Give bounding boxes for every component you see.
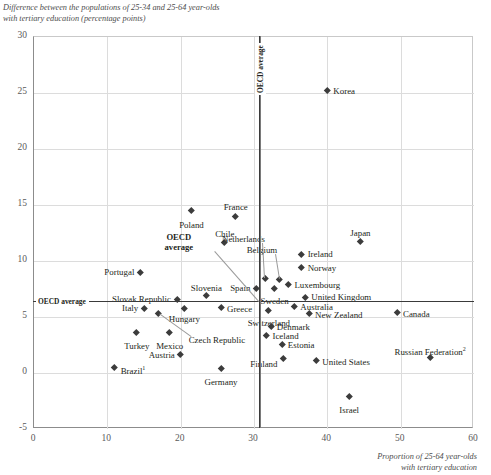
data-point-label: Germany	[205, 378, 238, 388]
data-point-marker[interactable]	[346, 393, 352, 399]
data-point-label: Israel	[339, 406, 359, 416]
plot-area: KoreaFrancePolandChileJapanNetherlandsBe…	[33, 36, 473, 428]
data-point-marker[interactable]	[271, 285, 277, 291]
data-point-label: France	[224, 203, 248, 213]
data-point-marker[interactable]	[203, 292, 209, 298]
data-point-marker[interactable]	[218, 365, 224, 371]
x-tick-label: 10	[86, 433, 126, 443]
gridline	[107, 37, 108, 429]
data-point-marker[interactable]	[298, 264, 304, 270]
data-point-marker[interactable]	[137, 269, 143, 275]
x-tick-label: 20	[160, 433, 200, 443]
data-point-marker[interactable]	[298, 251, 304, 257]
data-point-label: Slovenia	[191, 284, 222, 294]
data-point-label: Slovak Republic	[112, 295, 171, 305]
data-point-marker[interactable]	[218, 304, 224, 310]
y-tick-label: 0	[0, 366, 27, 376]
x-tick-label: 40	[306, 433, 346, 443]
data-point-label: Poland	[179, 221, 204, 231]
label-leader-line	[275, 254, 280, 279]
data-point-label: Austria	[149, 351, 175, 361]
data-point-label: Ireland	[308, 250, 333, 260]
data-point-marker[interactable]	[177, 351, 183, 357]
y-tick-label: -5	[0, 422, 27, 432]
gridline	[254, 37, 255, 429]
chart-container: Difference between the populations of 25…	[0, 0, 491, 475]
x-tick-label: 60	[453, 433, 491, 443]
data-point-marker[interactable]	[263, 332, 269, 338]
data-point-marker[interactable]	[357, 238, 363, 244]
data-point-label: Luxembourg	[294, 281, 340, 291]
gridline	[401, 37, 402, 429]
data-point-label: Japan	[350, 229, 370, 239]
data-point-label: Greece	[227, 305, 252, 315]
y-tick-label: 30	[0, 30, 27, 40]
data-point-label: Portugal	[104, 268, 134, 278]
data-point-label: New Zealand	[315, 311, 363, 321]
data-point-marker[interactable]	[232, 213, 238, 219]
data-point-marker[interactable]	[313, 357, 319, 363]
x-tick-label: 50	[380, 433, 420, 443]
data-point-label: Brazil1	[121, 364, 146, 376]
x-axis-title: Proportion of 25-64 year-olds with terti…	[277, 452, 477, 473]
data-point-label: Belgium	[247, 246, 278, 256]
oecd-average-horizontal-line	[33, 301, 474, 302]
y-tick-label: 10	[0, 254, 27, 264]
data-point-marker[interactable]	[141, 305, 147, 311]
y-tick-label: 5	[0, 310, 27, 320]
data-point-label: United States	[322, 358, 370, 368]
data-point-label: Canada	[403, 310, 430, 320]
data-point-marker[interactable]	[291, 303, 297, 309]
data-point-label: Finland	[250, 360, 277, 370]
data-point-marker[interactable]	[188, 207, 194, 213]
data-point-label: Norway	[308, 264, 337, 274]
x-tick-label: 0	[13, 433, 53, 443]
y-tick-label: 20	[0, 142, 27, 152]
data-point-label: Italy	[122, 304, 138, 314]
data-point-marker[interactable]	[111, 364, 117, 370]
data-point-marker[interactable]	[302, 294, 308, 300]
y-axis-title: Difference between the populations of 25…	[3, 3, 303, 24]
oecd-average-vertical-label: OECD average	[255, 43, 266, 95]
data-point-marker[interactable]	[280, 355, 286, 361]
data-point-marker[interactable]	[285, 281, 291, 287]
y-tick-label: 25	[0, 86, 27, 96]
data-point-marker[interactable]	[279, 341, 285, 347]
data-point-marker[interactable]	[394, 309, 400, 315]
x-tick-label: 30	[233, 433, 273, 443]
data-point-label: Czech Republic	[189, 336, 245, 346]
data-point-marker[interactable]	[133, 329, 139, 335]
oecd-average-horizontal-label: OECD average	[36, 296, 89, 307]
data-point-label: Estonia	[288, 341, 315, 351]
y-tick-label: 15	[0, 198, 27, 208]
data-point-marker[interactable]	[306, 310, 312, 316]
data-point-marker[interactable]	[265, 307, 271, 313]
oecd-average-point-label: OECD average	[144, 233, 214, 252]
data-point-label: Turkey	[124, 342, 149, 352]
data-point-marker[interactable]	[166, 329, 172, 335]
gridline	[327, 37, 328, 429]
data-point-marker[interactable]	[181, 305, 187, 311]
data-point-label: Russian Federation2	[395, 345, 466, 357]
data-point-label: Korea	[333, 87, 355, 97]
